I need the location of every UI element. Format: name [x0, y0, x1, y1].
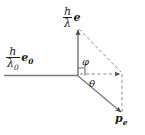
scattered-unit-vector: e	[72, 12, 81, 23]
label-electron-momentum: pe	[115, 113, 127, 127]
label-scattered-photon-momentum: h λ e	[63, 6, 81, 29]
label-incident-photon-momentum: h λ0 e0	[6, 46, 33, 72]
fraction-h-over-lambda-zero: h λ0	[6, 46, 20, 72]
electron-momentum-vector	[78, 76, 121, 112]
electron-momentum-subscript: e	[123, 118, 128, 127]
incident-unit-vector: e0	[20, 52, 34, 66]
incident-denominator-subscript: 0	[14, 63, 19, 72]
electron-momentum-symbol: p	[115, 112, 123, 125]
label-angle-theta: θ	[89, 79, 95, 89]
compton-scattering-figure: h λ0 e0 h λ e pe φ θ	[0, 0, 145, 135]
fraction-h-over-lambda: h λ	[63, 6, 72, 29]
incident-unit-vector-subscript: 0	[28, 57, 33, 66]
incident-denominator: λ0	[6, 58, 20, 72]
scattered-denominator: λ	[63, 18, 72, 29]
label-angle-phi: φ	[82, 57, 89, 67]
